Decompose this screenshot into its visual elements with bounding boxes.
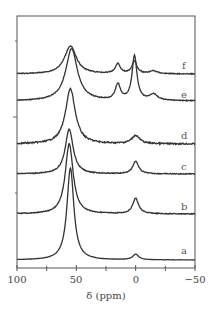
spectra-traces <box>17 46 195 260</box>
x-tick-label-m50: −50 <box>184 274 205 285</box>
trace-label-a: a <box>181 245 187 256</box>
y-axis-ticks <box>13 41 17 193</box>
trace-label-d: d <box>181 130 188 141</box>
trace-label-e: e <box>181 89 187 100</box>
x-tick-label-0: 0 <box>133 274 139 285</box>
trace-b <box>17 144 195 215</box>
trace-f <box>17 46 195 74</box>
trace-label-f: f <box>182 60 187 71</box>
trace-label-c: c <box>181 161 187 172</box>
x-tick-label-100: 100 <box>7 274 26 285</box>
x-tick-label-50: 50 <box>70 274 83 285</box>
trace-e <box>17 49 195 101</box>
trace-c <box>17 129 195 174</box>
trace-label-b: b <box>181 201 187 212</box>
x-axis-title: δ (ppm) <box>86 290 125 301</box>
nmr-spectra-chart: 100 50 0 −50 δ (ppm) f e d c b a <box>0 0 209 318</box>
